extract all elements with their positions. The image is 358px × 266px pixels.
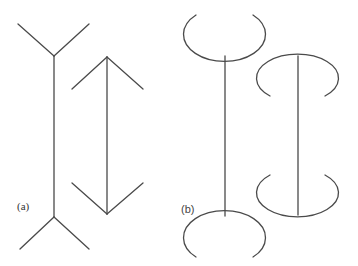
bottom-right-fin (54, 217, 89, 249)
bottom-left-fin (20, 217, 54, 249)
line-with-inward-arcs (257, 54, 339, 217)
illusion-figure: (a) (b) (0, 0, 358, 266)
panel-a: (a) (17, 24, 143, 249)
bottom-right-arrow (107, 183, 143, 214)
bottom-arc (184, 211, 266, 257)
top-arc (184, 15, 266, 61)
bottom-left-arrow (72, 183, 107, 214)
line-with-arrowheads (72, 57, 143, 214)
top-left-fin (18, 24, 54, 56)
panel-a-label: (a) (17, 200, 30, 213)
panel-b: (b) (181, 15, 339, 257)
top-left-arrow (72, 57, 107, 89)
line-with-outward-fins (18, 24, 89, 249)
top-right-arrow (107, 57, 143, 89)
top-right-fin (54, 24, 89, 56)
panel-b-label: (b) (181, 203, 194, 215)
line-with-outward-arcs (184, 15, 266, 257)
